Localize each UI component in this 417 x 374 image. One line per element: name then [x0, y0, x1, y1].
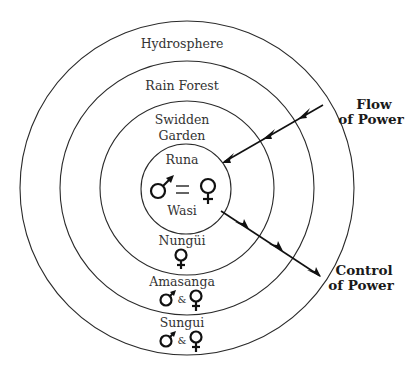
label-control: Control: [335, 262, 392, 278]
label-sungui: Sungui: [160, 315, 205, 330]
male-symbol-amasanga: [161, 290, 177, 306]
arrowhead-control-1: [235, 219, 249, 229]
ampersand-amasanga: &: [178, 294, 187, 305]
label-of-power-control: of Power: [328, 277, 395, 293]
female-symbol-center: [201, 179, 215, 204]
label-swidden: Swidden: [155, 112, 210, 127]
male-symbol-center: [151, 175, 174, 198]
label-of-power-flow: of Power: [338, 111, 405, 127]
label-runa: Runa: [166, 152, 200, 167]
equals-sign: [176, 186, 189, 193]
label-garden: Garden: [159, 128, 206, 143]
flow-of-power-arrow: [222, 105, 323, 163]
label-nungui: Nungüi: [158, 233, 205, 248]
power-circles-diagram: Hydrosphere Rain Forest Swidden Garden R…: [0, 0, 417, 374]
label-hydrosphere: Hydrosphere: [141, 36, 224, 51]
female-symbol-amasanga: [191, 291, 202, 312]
label-rain-forest: Rain Forest: [145, 78, 219, 93]
female-symbol-nungui: [176, 250, 187, 270]
ampersand-sungui: &: [178, 335, 187, 346]
control-of-power-arrow: [221, 211, 321, 277]
male-symbol-sungui: [161, 331, 177, 347]
label-flow: Flow: [356, 96, 392, 112]
arrowhead-control-2: [269, 241, 283, 251]
female-symbol-sungui: [191, 332, 202, 353]
label-wasi: Wasi: [167, 203, 197, 218]
ring-hydrosphere: [20, 21, 354, 355]
label-amasanga: Amasanga: [148, 274, 215, 289]
